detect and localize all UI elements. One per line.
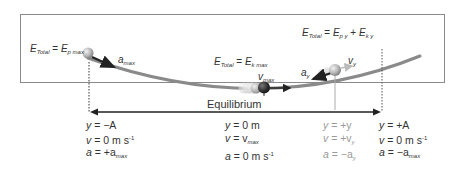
right-extreme-values: y = +A v = 0 m s-1 a = −amax (379, 119, 427, 163)
intermediate-values: y = +y v = +vy a = −ay (323, 119, 356, 165)
equilibrium-label: Equilibrium (205, 98, 263, 110)
equilibrium-values: y = 0 m v = vmax a = 0 m s-1 (225, 119, 274, 163)
energy-label-left: ETotal = Ep max (30, 44, 84, 55)
a-max-label: amax (118, 55, 135, 66)
energy-label-center: ETotal = Ek max (214, 57, 268, 68)
v-y-label: vy (348, 56, 356, 67)
v-max-label: vmax (258, 72, 274, 83)
a-y-label: ay (301, 68, 310, 79)
energy-label-right: ETotal = Ep y + Ek y (302, 28, 373, 39)
left-extreme-values: y = −A v = 0 m s-1 a = +amax (86, 119, 134, 163)
